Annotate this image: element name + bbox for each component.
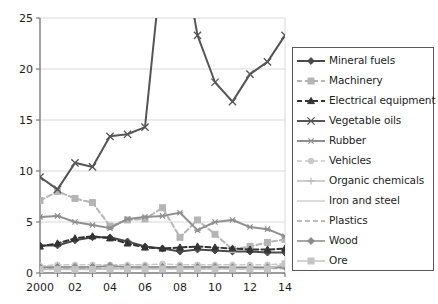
data-point-marker (264, 227, 271, 232)
legend-item-rubber[interactable]: Rubber (293, 130, 433, 150)
legend-key-icon (296, 253, 326, 267)
legend-key-icon (296, 233, 326, 247)
data-point-marker (177, 234, 183, 240)
legend-item-mineral-fuels[interactable]: Mineral fuels (293, 50, 433, 70)
data-point-marker (264, 58, 271, 65)
data-point-marker (72, 235, 79, 241)
data-point-marker (72, 266, 78, 272)
legend-key-icon (296, 173, 326, 187)
data-point-marker (89, 222, 96, 227)
legend-label: Ore (326, 254, 348, 266)
legend-key-icon (296, 53, 326, 67)
legend-label: Machinery (326, 74, 383, 86)
data-point-marker (195, 217, 201, 223)
data-point-marker (37, 266, 43, 272)
legend-key-icon (296, 133, 326, 147)
data-point-marker (230, 266, 236, 272)
chart-legend: Mineral fuelsMachineryElectrical equipme… (292, 47, 434, 271)
data-point-marker (177, 266, 183, 272)
y-tick-label: 25 (19, 12, 33, 25)
legend-key-icon (296, 213, 326, 227)
x-tick-label: 04 (103, 281, 117, 294)
data-point-marker (308, 158, 314, 164)
data-point-marker (195, 266, 201, 272)
data-point-marker (160, 266, 166, 272)
x-tick-label: 14 (278, 281, 292, 294)
data-point-marker (72, 196, 78, 202)
data-point-marker (212, 266, 218, 272)
legend-item-vehicles[interactable]: Vehicles (293, 150, 433, 170)
chart-figure: 0510152025200002040608101214 Mineral fue… (0, 0, 438, 304)
data-point-marker (265, 266, 271, 272)
data-point-marker (37, 198, 43, 204)
legend-key-icon (296, 93, 326, 107)
data-point-marker (308, 58, 315, 65)
legend-item-organic-chemicals[interactable]: Organic chemicals (293, 170, 433, 190)
data-point-marker (107, 266, 113, 272)
legend-key-icon (296, 113, 326, 127)
legend-item-vegetable-oils[interactable]: Vegetable oils (293, 110, 433, 130)
legend-item-electrical-equipment[interactable]: Electrical equipment (293, 90, 433, 110)
legend-key-icon (296, 73, 326, 87)
x-tick-label: 02 (68, 281, 82, 294)
series-rubber (37, 210, 289, 239)
data-point-marker (54, 213, 61, 218)
legend-label: Electrical equipment (326, 94, 435, 106)
y-tick-label: 20 (19, 63, 33, 76)
data-point-marker (194, 228, 201, 233)
data-point-marker (282, 261, 288, 267)
data-point-marker (247, 225, 254, 230)
legend-item-wood[interactable]: Wood (293, 230, 433, 250)
series-vegetable-oils (36, 0, 288, 193)
data-point-marker (308, 78, 314, 84)
y-tick-label: 5 (26, 216, 33, 229)
legend-label: Mineral fuels (326, 54, 395, 66)
data-point-marker (308, 258, 314, 264)
legend-item-ore[interactable]: Ore (293, 250, 433, 270)
data-point-marker (308, 178, 315, 185)
data-point-marker (177, 210, 184, 215)
x-tick-label: 2000 (26, 281, 54, 294)
data-point-marker (212, 231, 218, 237)
y-tick-label: 0 (26, 267, 33, 280)
data-point-marker (55, 266, 61, 272)
y-tick-label: 10 (19, 165, 33, 178)
legend-key-icon (296, 153, 326, 167)
data-point-marker (229, 98, 236, 105)
legend-label: Organic chemicals (326, 174, 424, 186)
data-point-marker (212, 219, 219, 224)
data-point-marker (265, 239, 271, 245)
data-point-marker (308, 138, 315, 143)
data-point-marker (246, 71, 253, 78)
x-tick-label: 08 (173, 281, 187, 294)
legend-label: Vegetable oils (326, 114, 401, 126)
data-point-marker (159, 213, 166, 218)
legend-label: Iron and steel (326, 194, 400, 206)
data-point-marker (90, 266, 96, 272)
y-tick-label: 15 (19, 114, 33, 127)
data-point-marker (90, 200, 96, 206)
legend-item-machinery[interactable]: Machinery (293, 70, 433, 90)
x-tick-label: 10 (208, 281, 222, 294)
legend-label: Wood (326, 234, 358, 246)
legend-label: Plastics (326, 214, 368, 226)
data-point-marker (308, 238, 315, 245)
data-point-marker (72, 219, 79, 224)
data-point-marker (247, 266, 253, 272)
legend-label: Rubber (326, 134, 366, 146)
data-point-marker (125, 266, 131, 272)
x-tick-label: 12 (243, 281, 257, 294)
legend-item-plastics[interactable]: Plastics (293, 210, 433, 230)
x-tick-label: 06 (138, 281, 152, 294)
data-point-marker (142, 266, 148, 272)
legend-key-icon (296, 193, 326, 207)
series-layer (36, 0, 288, 272)
data-point-marker (160, 205, 166, 211)
legend-label: Vehicles (326, 154, 371, 166)
legend-item-iron-and-steel[interactable]: Iron and steel (293, 190, 433, 210)
